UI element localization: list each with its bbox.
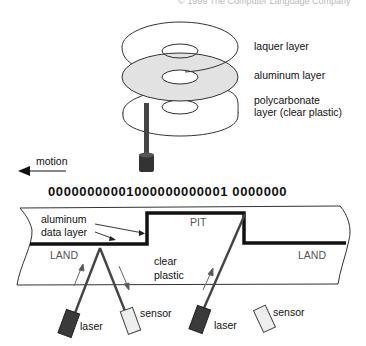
disc-stack xyxy=(122,22,238,136)
polycarbonate-layer-label: polycarbonate xyxy=(254,95,320,106)
pit-label: PIT xyxy=(190,217,206,228)
laser-right xyxy=(189,305,211,333)
motion-label: motion xyxy=(36,156,68,167)
aluminum-layer-label: aluminum layer xyxy=(254,70,325,81)
bitstream: 00000000001000000000001 0000000 xyxy=(48,185,287,198)
clear-plastic-label-2: plastic xyxy=(154,270,184,281)
laser-right-label: laser xyxy=(214,320,237,331)
sensor-left-label: sensor xyxy=(140,308,172,319)
polycarbonate-layer-label-2: layer (clear plastic) xyxy=(254,107,342,118)
bitstream-part-1: 00000000001000000000001 xyxy=(48,184,228,199)
laser-left xyxy=(58,309,80,337)
bitstream-part-2: 0000000 xyxy=(232,184,287,199)
cd-diagram xyxy=(0,0,366,346)
sensor-left xyxy=(120,307,140,334)
aluminum-disc xyxy=(122,53,238,101)
motion-arrow xyxy=(18,166,66,176)
land-left-label: LAND xyxy=(50,250,78,261)
sensor-right-label: sensor xyxy=(273,307,305,318)
clear-plastic-label-1: clear xyxy=(154,256,177,267)
laser-left-label: laser xyxy=(80,321,103,332)
laquer-layer-label: laquer layer xyxy=(254,41,309,52)
copyright-caption: © 1999 The Computer Language Company xyxy=(178,0,351,6)
land-right-label: LAND xyxy=(298,250,326,261)
aluminum-data-layer-label-2: data layer xyxy=(41,227,87,238)
aluminum-data-layer-label-1: aluminum xyxy=(41,214,87,225)
